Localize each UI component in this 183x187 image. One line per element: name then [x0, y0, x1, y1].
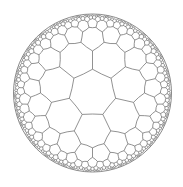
- tiling-edge: [93, 19, 96, 20]
- tiling-edge: [134, 151, 136, 154]
- tiling-edge: [20, 121, 21, 122]
- tiling-edge: [27, 73, 30, 79]
- tiling-edge: [36, 132, 42, 133]
- tiling-edge: [40, 150, 41, 151]
- tiling-edge: [74, 159, 77, 163]
- tiling-edge: [156, 55, 158, 56]
- tiling-edge: [50, 127, 60, 133]
- tiling-edge: [18, 94, 21, 96]
- tiling-edge: [147, 141, 148, 144]
- tiling-edge: [20, 104, 22, 107]
- tiling-edge: [56, 161, 57, 162]
- tiling-edge: [110, 163, 111, 166]
- tiling-edge: [26, 129, 28, 130]
- tiling-edge: [79, 17, 80, 18]
- tiling-edge: [93, 42, 105, 51]
- tiling-edge: [118, 26, 121, 29]
- tiling-edge: [25, 93, 31, 97]
- tiling-edge: [84, 17, 85, 18]
- tiling-edge: [81, 162, 82, 166]
- tiling-edge: [134, 93, 145, 102]
- tiling-edge: [85, 17, 86, 18]
- tiling-edge: [88, 161, 89, 165]
- tiling-edge: [38, 146, 40, 147]
- tiling-edge: [28, 64, 32, 68]
- tiling-edge: [26, 132, 27, 133]
- tiling-edge: [17, 106, 18, 107]
- tiling-edge: [104, 17, 105, 18]
- tiling-edge: [95, 19, 97, 22]
- tiling-edge: [157, 66, 161, 68]
- tiling-edge: [44, 34, 46, 35]
- tiling-edge: [111, 168, 112, 169]
- tiling-edge: [88, 22, 89, 27]
- tiling-edge: [69, 98, 82, 114]
- tiling-edge: [154, 135, 155, 137]
- tiling-edge: [125, 52, 126, 66]
- tiling-edge: [146, 63, 153, 64]
- tiling-edge: [134, 102, 140, 115]
- tiling-edge: [35, 43, 36, 45]
- tiling-edge: [108, 27, 113, 28]
- tiling-edge: [141, 150, 142, 152]
- tiling-edge: [79, 169, 80, 170]
- tiling-edge: [30, 139, 31, 140]
- tiling-edge: [165, 98, 166, 101]
- tiling-edge: [38, 144, 39, 146]
- tiling-edge: [120, 23, 121, 26]
- tiling-edge: [108, 17, 109, 18]
- tiling-edge: [41, 39, 43, 41]
- tiling-edge: [163, 101, 166, 104]
- tiling-edge: [106, 22, 107, 27]
- tiling-edge: [154, 139, 155, 140]
- tiling-edge: [167, 106, 168, 107]
- tiling-edge: [151, 47, 152, 49]
- tiling-edge: [60, 44, 69, 53]
- tiling-edge: [71, 163, 74, 164]
- tiling-edge: [22, 120, 24, 121]
- tiling-edge: [168, 98, 169, 99]
- tiling-edge: [138, 33, 139, 35]
- tiling-edge: [123, 22, 124, 23]
- tiling-edge: [42, 34, 43, 35]
- tiling-edge: [28, 134, 29, 135]
- tiling-edge: [48, 31, 49, 33]
- tiling-edge: [43, 38, 46, 39]
- tiling-edge: [51, 32, 53, 35]
- tiling-edge: [61, 22, 62, 23]
- tiling-edge: [132, 27, 133, 28]
- tiling-edge: [17, 92, 18, 94]
- tiling-edge: [125, 163, 126, 164]
- tiling-edge: [57, 134, 60, 144]
- tiling-edge: [55, 28, 58, 29]
- tiling-edge: [127, 33, 132, 35]
- tiling-edge: [111, 131, 125, 134]
- tiling-edge: [42, 127, 49, 133]
- tiling-edge: [85, 20, 88, 22]
- tiling-edge: [161, 66, 163, 67]
- tiling-edge: [23, 64, 24, 66]
- tiling-edge: [93, 144, 105, 148]
- tiling-edge: [17, 82, 18, 84]
- tiling-edge: [39, 81, 41, 93]
- tiling-edge: [15, 89, 16, 90]
- tiling-edge: [117, 159, 119, 162]
- tiling-edge: [110, 18, 111, 19]
- tiling-edge: [77, 159, 82, 162]
- tiling-edge: [104, 42, 116, 43]
- tiling-edge: [65, 35, 69, 44]
- tiling-edge: [44, 151, 46, 152]
- tiling-edge: [134, 40, 135, 47]
- tiling-edge: [17, 101, 19, 102]
- tiling-edge: [143, 35, 144, 36]
- tiling-edge: [58, 25, 59, 27]
- tiling-edge: [139, 151, 141, 152]
- tiling-edge: [16, 97, 17, 98]
- tiling-edge: [147, 144, 148, 146]
- tiling-edge: [63, 159, 66, 161]
- tiling-edge: [53, 157, 54, 158]
- tiling-edge: [146, 38, 147, 39]
- tiling-edge: [137, 32, 139, 33]
- tiling-edge: [145, 37, 146, 38]
- tiling-edge: [21, 63, 22, 64]
